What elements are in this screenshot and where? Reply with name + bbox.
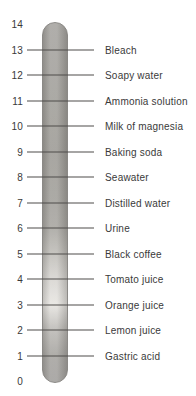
substance-label: Soapy water [105, 70, 163, 81]
substance-label: Gastric acid [105, 350, 160, 361]
ph-value-label: 12 [0, 70, 23, 81]
ph-value-label: 13 [0, 44, 23, 55]
ph-scale-figure: 1413Bleach12Soapy water11Ammonia solutio… [0, 0, 196, 396]
ph-value-label: 6 [0, 223, 23, 234]
substance-label: Tomato juice [105, 274, 164, 285]
ph-value-label: 10 [0, 121, 23, 132]
substance-label: Baking soda [105, 146, 162, 157]
ph-value-label: 5 [0, 248, 23, 259]
ph-value-label: 11 [0, 95, 23, 106]
ph-scale-rows: 1413Bleach12Soapy water11Ammonia solutio… [0, 0, 196, 396]
substance-label: Ammonia solution [105, 95, 188, 106]
substance-label: Orange juice [105, 299, 164, 310]
tick-line [27, 177, 94, 178]
ph-value-label: 1 [0, 350, 23, 361]
substance-label: Distilled water [105, 197, 170, 208]
substance-label: Milk of magnesia [105, 121, 183, 132]
substance-label: Bleach [105, 44, 137, 55]
ph-value-label: 0 [0, 376, 23, 387]
ph-value-label: 9 [0, 146, 23, 157]
substance-label: Lemon juice [105, 325, 161, 336]
substance-label: Seawater [105, 172, 149, 183]
tick-line [27, 228, 94, 229]
ph-value-label: 2 [0, 325, 23, 336]
tick-line [27, 75, 94, 76]
ph-value-label: 3 [0, 299, 23, 310]
ph-value-label: 4 [0, 274, 23, 285]
substance-label: Urine [105, 223, 130, 234]
tick-line [27, 202, 94, 203]
ph-value-label: 14 [0, 19, 23, 30]
tick-line [27, 151, 94, 152]
tick-line [27, 355, 94, 356]
tick-line [27, 49, 94, 50]
tick-line [27, 279, 94, 280]
tick-line [27, 100, 94, 101]
tick-line [27, 126, 94, 127]
substance-label: Black coffee [105, 248, 162, 259]
tick-line [27, 304, 94, 305]
tick-line [27, 253, 94, 254]
ph-value-label: 8 [0, 172, 23, 183]
tick-line [27, 330, 94, 331]
ph-value-label: 7 [0, 197, 23, 208]
